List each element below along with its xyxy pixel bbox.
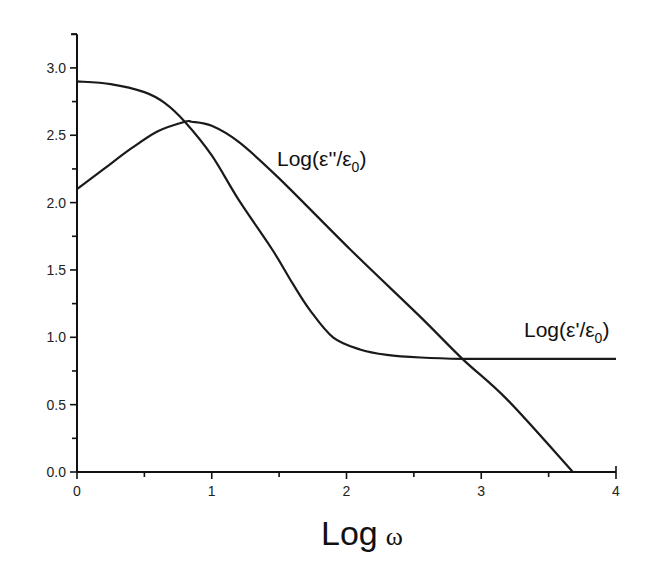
eps-double-prime-curve xyxy=(77,121,573,472)
curve-label-eps-prime: Log(ε'/ε0) xyxy=(524,318,609,346)
y-tick-label: 0.5 xyxy=(47,397,67,413)
dielectric-chart: 0.00.51.01.52.02.53.0 01234 Log(ε''/ε0) … xyxy=(0,0,660,571)
y-tick-label: 1.0 xyxy=(47,329,67,345)
curve-label-eps-double-prime: Log(ε''/ε0) xyxy=(277,147,366,175)
x-tick-label: 0 xyxy=(73,483,81,499)
x-tick-label: 1 xyxy=(208,483,216,499)
x-axis-title: Logω xyxy=(321,514,403,552)
x-tick-label: 2 xyxy=(343,483,351,499)
x-axis: 01234 xyxy=(73,466,620,499)
y-axis: 0.00.51.01.52.02.53.0 xyxy=(47,34,77,480)
x-tick-label: 3 xyxy=(477,483,485,499)
y-tick-label: 3.0 xyxy=(47,60,67,76)
x-tick-label: 4 xyxy=(612,483,620,499)
plot-lines xyxy=(77,81,616,472)
y-tick-label: 0.0 xyxy=(47,464,67,480)
y-tick-label: 2.5 xyxy=(47,127,67,143)
y-tick-label: 2.0 xyxy=(47,195,67,211)
y-tick-label: 1.5 xyxy=(47,262,67,278)
